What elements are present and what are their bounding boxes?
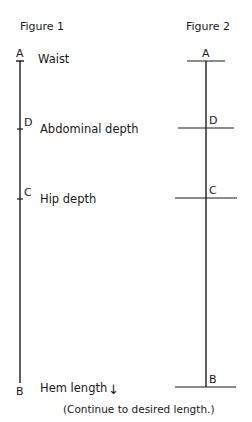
- figure2-title: Figure 2: [186, 21, 230, 32]
- figure1-point-b: B: [16, 386, 24, 397]
- figure1-label-hip-depth: Hip depth: [40, 194, 96, 206]
- figure2-point-a: A: [202, 48, 210, 59]
- figure2-point-d: D: [209, 115, 217, 126]
- figure1-label-hem-length: Hem length: [40, 383, 107, 395]
- figure2-point-b: B: [209, 374, 217, 385]
- figure2-point-c: C: [209, 185, 217, 196]
- figure1-point-d: D: [24, 117, 32, 128]
- figure1-title: Figure 1: [20, 21, 64, 32]
- arrow-down-icon: ↓: [108, 383, 119, 396]
- figure1-point-a: A: [16, 48, 24, 59]
- figure1-point-c: C: [24, 187, 32, 198]
- continue-note: (Continue to desired length.): [63, 404, 215, 415]
- figure1-label-waist: Waist: [38, 54, 69, 66]
- figure1-label-abdominal-depth: Abdominal depth: [40, 124, 139, 136]
